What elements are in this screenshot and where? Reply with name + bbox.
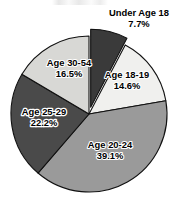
slice-label-value: 16.5% [56, 68, 83, 79]
pie-chart: Under Age 187.7%Age 18-1914.6%Age 20-243… [0, 0, 177, 202]
slice-label-value: 22.2% [31, 117, 58, 128]
pie-chart-svg: Under Age 187.7%Age 18-1914.6%Age 20-243… [0, 0, 177, 202]
slice-label-name: Under Age 18 [109, 7, 169, 18]
slice-label-name: Age 20-24 [88, 139, 133, 150]
slice-label-name: Age 25-29 [22, 106, 66, 117]
slice-label-value: 7.7% [128, 18, 150, 29]
slice-label-value: 39.1% [97, 150, 124, 161]
slice-label-name: Age 30-54 [47, 57, 92, 68]
slice-label-value: 14.6% [114, 80, 141, 91]
slice-label-name: Age 18-19 [105, 69, 149, 80]
